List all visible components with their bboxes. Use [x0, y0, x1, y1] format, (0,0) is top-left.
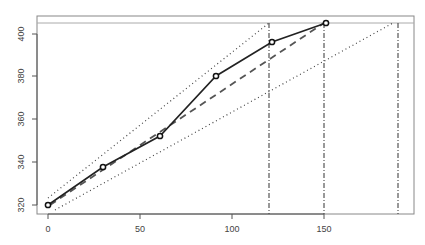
y-tick-label: 400 — [16, 26, 26, 41]
upper-bound-line — [48, 23, 269, 198]
data-point — [100, 164, 105, 169]
observed-points — [45, 20, 328, 207]
y-tick-label: 380 — [16, 68, 26, 83]
x-tick-label: 150 — [316, 224, 331, 234]
y-axis — [32, 34, 37, 205]
y-tick-label: 340 — [16, 154, 26, 169]
x-tick-label: 0 — [45, 224, 50, 234]
data-point — [157, 133, 162, 138]
y-tick-label: 320 — [16, 197, 26, 212]
trend-line — [50, 23, 324, 205]
x-axis — [48, 214, 324, 219]
data-point — [323, 20, 328, 25]
data-point — [269, 39, 274, 44]
chart-svg: 0 50 100 150 400 380 360 340 320 — [0, 0, 425, 245]
plot-frame — [37, 16, 414, 214]
vertical-reference-lines — [269, 23, 398, 214]
x-tick-label: 50 — [135, 224, 145, 234]
y-tick-label: 360 — [16, 111, 26, 126]
data-point — [45, 202, 50, 207]
lower-bound-line — [55, 23, 393, 210]
data-point — [213, 73, 218, 78]
x-tick-label: 100 — [224, 224, 239, 234]
